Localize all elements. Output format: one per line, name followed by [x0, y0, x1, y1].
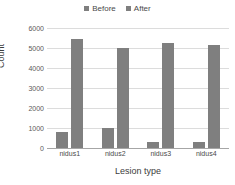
bar-before-nidus4[interactable]: [193, 142, 205, 148]
x-axis-tick-label: nidus3: [138, 150, 184, 158]
y-axis-tick-label: 4000: [4, 65, 44, 72]
y-axis-tick-label: 0: [4, 145, 44, 152]
legend-item-before[interactable]: Before: [84, 4, 116, 13]
bar-after-nidus1[interactable]: [71, 39, 83, 148]
y-axis-tick-label: 6000: [4, 25, 44, 32]
bar-after-nidus2[interactable]: [117, 48, 129, 148]
y-axis-tick-label: 5000: [4, 45, 44, 52]
y-axis-tick-label: 3000: [4, 85, 44, 92]
bar-group: [138, 28, 184, 148]
bar-group: [93, 28, 139, 148]
x-axis-tick-label: nidus2: [93, 150, 139, 158]
legend-swatch-before: [84, 6, 89, 11]
bar-group: [184, 28, 230, 148]
bar-after-nidus4[interactable]: [208, 45, 220, 148]
legend-label-after: After: [134, 4, 151, 13]
x-axis-line: [47, 148, 229, 149]
legend-label-before: Before: [92, 4, 116, 13]
bar-before-nidus2[interactable]: [102, 128, 114, 148]
y-axis-tick-label: 2000: [4, 105, 44, 112]
bar-groups: [47, 28, 229, 148]
x-axis-tick-label: nidus1: [47, 150, 93, 158]
x-axis-ticks: nidus1nidus2nidus3nidus4: [47, 150, 229, 158]
x-axis-tick-label: nidus4: [184, 150, 230, 158]
bar-group: [47, 28, 93, 148]
bar-before-nidus3[interactable]: [147, 142, 159, 148]
x-axis-title: Lesion type: [47, 166, 229, 176]
bar-after-nidus3[interactable]: [162, 43, 174, 148]
legend-item-after[interactable]: After: [126, 4, 151, 13]
chart-legend: Before After: [0, 4, 235, 13]
bar-chart: Before After Count 010002000300040005000…: [0, 0, 235, 185]
y-axis-tick-label: 1000: [4, 125, 44, 132]
legend-swatch-after: [126, 6, 131, 11]
bar-before-nidus1[interactable]: [56, 132, 68, 148]
